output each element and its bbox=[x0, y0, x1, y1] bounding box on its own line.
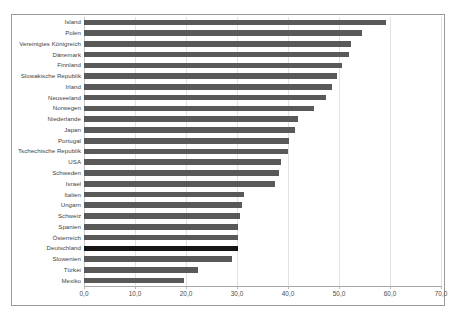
bar-category-label: Portugal bbox=[58, 138, 81, 144]
bar-row: Tschechische Republik bbox=[84, 146, 441, 157]
bar-row: Polen bbox=[84, 28, 441, 39]
bar-category-label: Island bbox=[64, 19, 81, 25]
bar-row: Spanien bbox=[84, 221, 441, 232]
x-tick bbox=[84, 286, 85, 289]
bar-category-label: Polen bbox=[65, 30, 81, 36]
bar bbox=[84, 127, 295, 133]
bar-category-label: Japan bbox=[64, 127, 81, 133]
bar-row: Irland bbox=[84, 82, 441, 93]
x-tick-label: 10,0 bbox=[129, 291, 141, 297]
bar-category-label: Mexiko bbox=[61, 278, 81, 284]
bar-row: Ungarn bbox=[84, 200, 441, 211]
bar-category-label: Neuseeland bbox=[48, 95, 81, 101]
bar bbox=[84, 30, 362, 36]
bar-row: Slowenien bbox=[84, 254, 441, 265]
bar-row: Österreich bbox=[84, 232, 441, 243]
x-tick-label: 40,0 bbox=[282, 291, 294, 297]
bar-category-label: Türkei bbox=[64, 267, 81, 273]
plot-area: IslandPolenVereinigtes KönigreichDänemar… bbox=[84, 17, 441, 298]
bar bbox=[84, 181, 275, 187]
bar-category-label: Slowenien bbox=[52, 256, 81, 262]
x-tick-label: 0,0 bbox=[80, 291, 89, 297]
bar-row: Island bbox=[84, 17, 441, 28]
bar bbox=[84, 52, 349, 58]
bar-category-label: Spanien bbox=[58, 224, 81, 230]
x-tick bbox=[288, 286, 289, 289]
bar-category-label: Österreich bbox=[52, 235, 81, 241]
x-tick bbox=[186, 286, 187, 289]
bar bbox=[84, 170, 279, 176]
bar-row: USA bbox=[84, 157, 441, 168]
bar-row: Japan bbox=[84, 125, 441, 136]
bar bbox=[84, 256, 232, 262]
bar-row: Schweiz bbox=[84, 211, 441, 222]
bar bbox=[84, 278, 184, 284]
bar bbox=[84, 84, 332, 90]
x-tick bbox=[441, 286, 442, 289]
x-tick-label: 60,0 bbox=[384, 291, 396, 297]
bar-row: Israel bbox=[84, 178, 441, 189]
x-tick bbox=[237, 286, 238, 289]
bar-category-label: Schweden bbox=[52, 170, 81, 176]
bar-row: Mexiko bbox=[84, 275, 441, 286]
bar-category-label: Schweiz bbox=[58, 213, 81, 219]
bar-row: Deutschland bbox=[84, 243, 441, 254]
bar bbox=[84, 149, 288, 155]
bar-category-label: Finnland bbox=[57, 62, 81, 68]
bar bbox=[84, 202, 242, 208]
bar-row: Neuseeland bbox=[84, 92, 441, 103]
bar-category-label: Irland bbox=[65, 84, 81, 90]
bar-category-label: Israel bbox=[66, 181, 81, 187]
bar-category-label: Dänemark bbox=[52, 52, 81, 58]
bar-row: Schweden bbox=[84, 168, 441, 179]
bar-row: Türkei bbox=[84, 264, 441, 275]
bar-category-label: Slowakische Republik bbox=[21, 73, 81, 79]
bar bbox=[84, 235, 238, 241]
bar bbox=[84, 116, 298, 122]
bar bbox=[84, 213, 240, 219]
bar bbox=[84, 106, 314, 112]
bar-series: IslandPolenVereinigtes KönigreichDänemar… bbox=[84, 17, 441, 286]
bar-category-label: Norwegen bbox=[53, 105, 81, 111]
x-tick bbox=[135, 286, 136, 289]
bar-row: Finnland bbox=[84, 60, 441, 71]
bar bbox=[84, 63, 342, 69]
x-tick bbox=[390, 286, 391, 289]
bar bbox=[84, 95, 326, 101]
bar-category-label: Deutschland bbox=[47, 245, 81, 251]
bar bbox=[84, 41, 351, 47]
bar bbox=[84, 246, 238, 252]
x-axis-line bbox=[84, 286, 441, 287]
bar bbox=[84, 159, 281, 165]
x-tick bbox=[339, 286, 340, 289]
bar-category-label: Tschechische Republik bbox=[18, 148, 81, 154]
bar-row: Vereinigtes Königreich bbox=[84, 39, 441, 50]
x-tick-label: 20,0 bbox=[180, 291, 192, 297]
x-tick-label: 30,0 bbox=[231, 291, 243, 297]
bar-category-label: Ungarn bbox=[61, 202, 81, 208]
x-tick-label: 50,0 bbox=[333, 291, 345, 297]
bar-row: Niederlande bbox=[84, 114, 441, 125]
bar-row: Norwegen bbox=[84, 103, 441, 114]
bar-row: Dänemark bbox=[84, 49, 441, 60]
bar-chart-figure: IslandPolenVereinigtes KönigreichDänemar… bbox=[0, 0, 457, 321]
bar-row: Italien bbox=[84, 189, 441, 200]
bar bbox=[84, 267, 198, 273]
bar-row: Portugal bbox=[84, 135, 441, 146]
x-tick-label: 70,0 bbox=[435, 291, 447, 297]
bar-category-label: Niederlande bbox=[48, 116, 81, 122]
bar-category-label: USA bbox=[68, 159, 81, 165]
bar bbox=[84, 20, 386, 26]
bar-category-label: Vereinigtes Königreich bbox=[19, 41, 81, 47]
bar bbox=[84, 138, 289, 144]
bar bbox=[84, 73, 337, 79]
bar bbox=[84, 224, 238, 230]
bar bbox=[84, 192, 244, 198]
bar-category-label: Italien bbox=[64, 191, 81, 197]
bar-row: Slowakische Republik bbox=[84, 71, 441, 82]
